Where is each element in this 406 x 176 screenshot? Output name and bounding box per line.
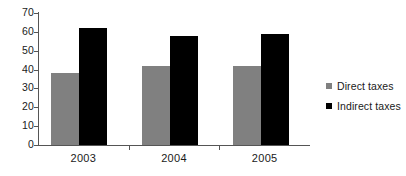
y-axis-tick-label: 0 — [28, 138, 34, 150]
plot-area — [38, 13, 310, 145]
y-axis-tick-label: 30 — [22, 81, 34, 93]
legend-item-indirect-taxes[interactable]: Indirect taxes — [326, 98, 401, 114]
legend-item-label: Indirect taxes — [337, 100, 401, 112]
x-axis-line — [38, 145, 310, 146]
x-axis-separator — [219, 145, 220, 150]
y-axis-tick-label: 50 — [22, 44, 34, 56]
bar-2005-direct-taxes — [233, 66, 261, 145]
x-axis-separator — [129, 145, 130, 150]
bar-2004-direct-taxes — [142, 66, 170, 145]
y-axis-tick-label: 10 — [22, 119, 34, 131]
bar-2004-indirect-taxes — [170, 36, 198, 145]
y-axis-tick-label: 70 — [22, 6, 34, 18]
bar-2005-indirect-taxes — [261, 34, 289, 145]
bar-chart: 706050403020100 200320042005 Direct taxe… — [0, 0, 406, 176]
y-axis-tick-label: 60 — [22, 25, 34, 37]
bar-2003-indirect-taxes — [79, 28, 107, 145]
gray-square-marker-icon — [326, 83, 332, 89]
chart-legend: Direct taxesIndirect taxes — [326, 78, 401, 118]
x-axis-tick-label: 2003 — [38, 152, 129, 164]
bar-2003-direct-taxes — [51, 73, 79, 145]
y-axis-tick-label: 20 — [22, 100, 34, 112]
x-axis-tick-label: 2005 — [219, 152, 310, 164]
y-axis-tick-label: 40 — [22, 63, 34, 75]
black-square-marker-icon — [326, 103, 332, 109]
x-axis-tick-label: 2004 — [129, 152, 220, 164]
legend-item-direct-taxes[interactable]: Direct taxes — [326, 78, 401, 94]
legend-item-label: Direct taxes — [337, 80, 394, 92]
